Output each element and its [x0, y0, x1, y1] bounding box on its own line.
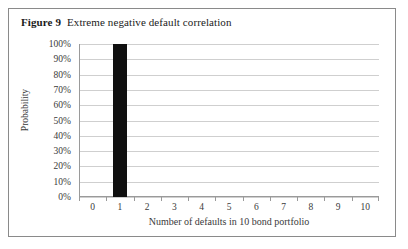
y-axis-tick-label: 50%	[23, 116, 71, 126]
x-axis-tick-label: 5	[227, 202, 232, 212]
x-axis-tick	[297, 197, 298, 201]
plot-area	[79, 44, 379, 197]
x-axis-tick	[134, 197, 135, 201]
y-axis-tick-label: 80%	[23, 70, 71, 80]
x-axis-tick-label: 2	[145, 202, 150, 212]
y-axis-tick-label: 10%	[23, 177, 71, 187]
x-axis-ticks	[79, 197, 379, 201]
x-axis-tick-label: 1	[118, 202, 123, 212]
x-axis-tick	[79, 197, 80, 201]
x-axis-tick-label: 6	[254, 202, 259, 212]
x-axis-tick-labels: 012345678910	[79, 202, 379, 216]
y-axis-tick-label: 40%	[23, 131, 71, 141]
x-axis-tick	[243, 197, 244, 201]
bar	[113, 44, 127, 197]
x-axis-tick-label: 3	[172, 202, 177, 212]
x-axis-tick-label: 9	[336, 202, 341, 212]
x-axis-tick-label: 0	[90, 202, 95, 212]
x-axis-tick	[215, 197, 216, 201]
x-axis-tick	[106, 197, 107, 201]
y-axis-tick-label: 0%	[23, 192, 71, 202]
y-axis-tick-label: 100%	[23, 39, 71, 49]
x-axis-tick-label: 4	[199, 202, 204, 212]
y-axis-tick-label: 70%	[23, 85, 71, 95]
x-axis-tick	[324, 197, 325, 201]
x-axis-tick-label: 10	[361, 202, 371, 212]
y-axis-tick-label: 30%	[23, 146, 71, 156]
bar-chart: Probability 0%10%20%30%40%50%60%70%80%90…	[9, 9, 395, 236]
x-axis-tick	[352, 197, 353, 201]
y-axis-tick-labels: 0%10%20%30%40%50%60%70%80%90%100%	[23, 37, 71, 191]
x-axis-tick-label: 7	[281, 202, 286, 212]
y-axis-tick-label: 60%	[23, 100, 71, 110]
bars-layer	[79, 44, 379, 197]
x-axis-tick	[378, 197, 379, 201]
y-axis-tick-label: 20%	[23, 161, 71, 171]
x-axis-tick	[270, 197, 271, 201]
x-axis-tick	[161, 197, 162, 201]
x-axis-tick	[188, 197, 189, 201]
x-axis-tick-label: 8	[308, 202, 313, 212]
y-axis-tick-label: 90%	[23, 54, 71, 64]
figure-frame: Figure 9Extreme negative default correla…	[8, 8, 396, 237]
x-axis-title: Number of defaults in 10 bond portfolio	[79, 216, 379, 227]
